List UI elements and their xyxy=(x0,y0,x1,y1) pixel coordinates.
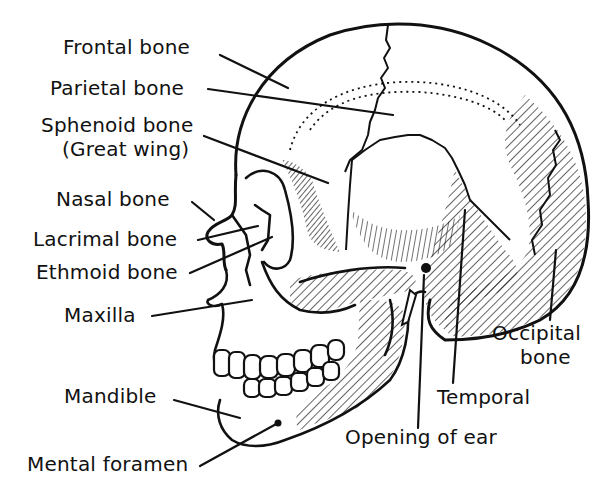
label-mandible: Mandible xyxy=(64,385,157,407)
label-nasal-bone: Nasal bone xyxy=(56,188,170,210)
label-parietal-bone: Parietal bone xyxy=(50,77,184,99)
leader-opening-of-ear xyxy=(418,275,424,428)
styloid-process xyxy=(402,290,416,325)
ear-opening-mark xyxy=(421,263,431,273)
sphenoid-hatching xyxy=(282,160,340,252)
label-ethmoid-bone: Ethmoid bone xyxy=(36,261,178,283)
label-opening-of-ear: Opening of ear xyxy=(345,426,497,448)
leader-mandible xyxy=(174,400,240,418)
leader-sphenoid xyxy=(204,136,328,183)
label-temporal: Temporal xyxy=(437,386,530,408)
leader-maxilla xyxy=(152,300,252,316)
leader-frontal xyxy=(220,55,288,88)
label-mental-foramen: Mental foramen xyxy=(27,453,188,475)
label-lacrimal-bone: Lacrimal bone xyxy=(33,228,177,250)
leader-parietal xyxy=(208,89,393,115)
label-occipital: Occipital xyxy=(492,322,581,344)
leader-ethmoid xyxy=(190,237,272,273)
label-sphenoid-bone: Sphenoid bone xyxy=(41,114,193,136)
temporal-lines xyxy=(290,82,520,150)
label-sphenoid-great-wing: (Great wing) xyxy=(62,138,189,160)
skull-diagram: Frontal bone Parietal bone Sphenoid bone… xyxy=(0,0,609,484)
label-occipital-bone: bone xyxy=(520,346,571,368)
label-frontal-bone: Frontal bone xyxy=(63,36,190,58)
leader-nasal xyxy=(192,202,214,220)
label-maxilla: Maxilla xyxy=(64,304,136,326)
